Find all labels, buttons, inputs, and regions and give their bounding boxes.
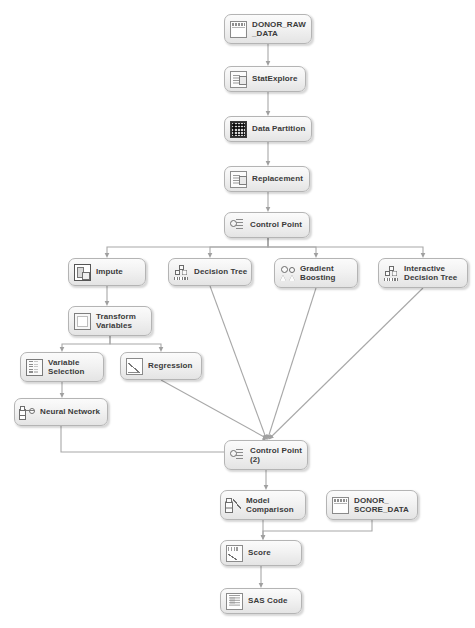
node-interactive-decision-tree[interactable]: Interactive Decision Tree [378,258,468,288]
node-replacement[interactable]: Replacement [224,166,310,192]
node-label: Control Point (2) [250,446,302,465]
node-label: Interactive Decision Tree [404,264,457,283]
node-label: Regression [148,361,193,371]
node-sas-code[interactable]: SAS Code [220,588,302,614]
node-label: DONOR_ SCORE_DATA [354,496,409,515]
node-label: Model Comparison [246,496,294,515]
node-transform-variables[interactable]: Transform Variables [68,306,152,336]
sas-code-icon [226,593,243,610]
node-donor-score-data[interactable]: DONOR_ SCORE_DATA [326,490,418,520]
tree-icon [384,266,399,281]
table-icon [332,497,349,514]
grid-icon [230,121,247,138]
gradient-boosting-icon [280,266,295,281]
node-decision-tree[interactable]: Decision Tree [168,258,252,286]
variable-selection-icon [26,359,43,376]
process-flow-canvas[interactable]: DONOR_RAW _DATA StatExplore Data Partiti… [0,0,475,628]
neural-network-icon [20,405,35,420]
node-regression[interactable]: Regression [120,352,202,380]
node-stat-explore[interactable]: StatExplore [224,66,306,92]
node-control-point-2[interactable]: Control Point (2) [224,440,308,470]
regression-icon [126,358,143,375]
node-label: Neural Network [40,407,100,417]
node-donor-raw-data[interactable]: DONOR_RAW _DATA [224,14,312,44]
score-icon [226,545,243,562]
node-variable-selection[interactable]: Variable Selection [20,352,104,382]
doc-icon [230,171,247,188]
impute-icon [74,264,91,281]
node-label: Replacement [252,174,303,184]
node-label: Decision Tree [194,267,247,277]
node-control-point[interactable]: Control Point [224,212,310,238]
node-label: Transform Variables [96,312,136,331]
node-model-comparison[interactable]: Model Comparison [220,490,306,520]
node-label: Impute [96,267,123,277]
tree-icon [174,265,189,280]
node-label: DONOR_RAW _DATA [252,20,306,39]
control-point-icon [230,218,245,233]
node-label: Score [248,548,271,558]
table-icon [230,21,247,38]
model-comparison-icon [226,498,241,513]
node-label: StatExplore [252,74,298,84]
formula-icon [74,313,91,330]
node-label: SAS Code [248,596,287,606]
node-label: Control Point [250,220,302,230]
node-label: Variable Selection [48,358,84,377]
control-point-icon [230,448,245,463]
doc-icon [230,71,247,88]
node-impute[interactable]: Impute [68,258,146,286]
node-gradient-boosting[interactable]: Gradient Boosting [274,258,358,288]
node-data-partition[interactable]: Data Partition [224,116,312,142]
node-neural-network[interactable]: Neural Network [14,398,108,426]
node-score[interactable]: Score [220,540,302,566]
node-label: Data Partition [252,124,305,134]
node-label: Gradient Boosting [300,264,335,283]
